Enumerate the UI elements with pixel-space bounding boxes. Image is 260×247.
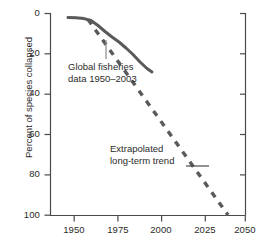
annotation-trend-line1: Extrapolated xyxy=(110,143,174,155)
x-tick-label-2000: 2000 xyxy=(141,224,181,235)
x-axis-ticks xyxy=(74,216,245,222)
annotation-fisheries-line2: data 1950–2003 xyxy=(68,73,137,85)
x-tick-label-1975: 1975 xyxy=(98,224,138,235)
y-tick-label-100: 100 xyxy=(12,209,40,220)
y-tick-label-80: 80 xyxy=(12,168,40,179)
y-tick-label-40: 40 xyxy=(12,87,40,98)
annotation-trend-line2: long-term trend xyxy=(110,155,174,167)
y-tick-label-20: 20 xyxy=(12,47,40,58)
x-tick-label-2050: 2050 xyxy=(225,224,260,235)
y-axis-ticks-right xyxy=(240,14,246,175)
annotation-fisheries: Global fisheries data 1950–2003 xyxy=(68,61,137,84)
y-tick-label-60: 60 xyxy=(12,128,40,139)
annotation-fisheries-line1: Global fisheries xyxy=(68,61,137,73)
x-tick-label-2025: 2025 xyxy=(185,224,225,235)
series-line-extrapolated xyxy=(88,20,228,216)
chart-figure: Percent of species collapsed 0 20 40 60 … xyxy=(0,0,260,247)
x-tick-label-1950: 1950 xyxy=(54,224,94,235)
annotation-trend: Extrapolated long-term trend xyxy=(110,143,174,166)
y-axis-ticks-left xyxy=(45,14,51,216)
y-tick-label-0: 0 xyxy=(12,7,40,18)
